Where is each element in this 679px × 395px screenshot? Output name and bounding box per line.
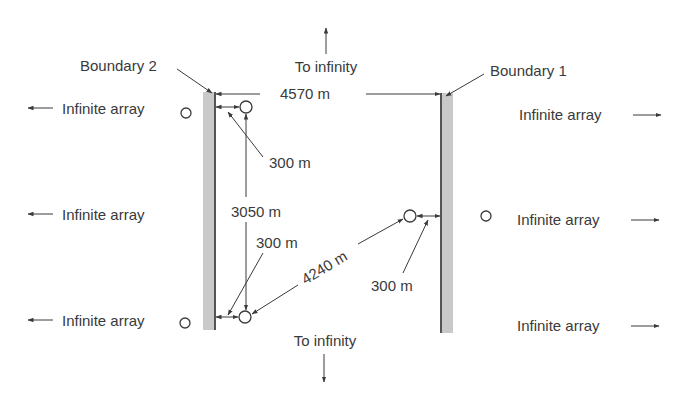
image-well-left-top bbox=[181, 108, 191, 118]
boundary-2 bbox=[203, 92, 215, 330]
well-lower-left bbox=[239, 311, 251, 323]
diagonal-spacing-label: 4240 m bbox=[298, 247, 350, 287]
image-well-left-bottom bbox=[180, 318, 190, 328]
top-to-infinity-label: To infinity bbox=[295, 58, 358, 75]
diagonal-spacing-arrow-upper bbox=[358, 219, 403, 244]
boundary-1-band bbox=[442, 93, 453, 333]
boundary-1-leader-arrow bbox=[446, 74, 484, 96]
boundary-1 bbox=[441, 93, 453, 333]
array-left-bottom-label: Infinite array bbox=[62, 312, 145, 329]
vertical-spacing-label: 3050 m bbox=[231, 203, 281, 220]
offset-right-label: 300 m bbox=[371, 277, 413, 294]
offset-right-leader bbox=[403, 220, 428, 273]
boundary-1-label: Boundary 1 bbox=[490, 62, 567, 79]
boundary-spacing-label: 4570 m bbox=[280, 85, 330, 102]
boundary-2-band bbox=[203, 92, 214, 330]
well-right bbox=[404, 210, 416, 222]
offset-upper-left-label: 300 m bbox=[269, 154, 311, 171]
bottom-to-infinity-label: To infinity bbox=[294, 332, 357, 349]
boundary-2-label: Boundary 2 bbox=[80, 57, 157, 74]
diagonal-spacing-arrow-lower bbox=[252, 285, 298, 314]
array-left-middle-label: Infinite array bbox=[62, 206, 145, 223]
offset-lower-left-label: 300 m bbox=[256, 234, 298, 251]
image-well-right bbox=[481, 211, 491, 221]
array-left-top-label: Infinite array bbox=[62, 100, 145, 117]
well-array-diagram: Boundary 2 Boundary 1 To infinity 4570 m… bbox=[0, 0, 679, 395]
well-upper-left bbox=[240, 101, 252, 113]
array-right-top-label: Infinite array bbox=[519, 106, 602, 123]
array-right-bottom-label: Infinite array bbox=[517, 317, 600, 334]
array-right-middle-label: Infinite array bbox=[517, 211, 600, 228]
boundary-2-leader-arrow bbox=[177, 69, 212, 93]
